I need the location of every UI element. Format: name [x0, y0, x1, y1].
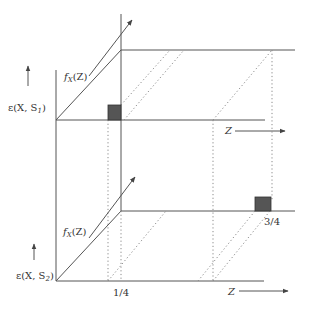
upper-fx-label: fX(Z)	[63, 71, 88, 84]
lower-marker-square	[255, 197, 271, 211]
lower-dotted-guides	[108, 211, 270, 281]
tick-label-three-quarter: 3/4	[264, 216, 280, 227]
tick-label-quarter: 1/4	[113, 287, 129, 298]
lower-fx-label: fX(Z)	[62, 226, 87, 239]
upper-dotted-guides	[108, 50, 272, 281]
frame-lines	[56, 14, 121, 281]
diagram-svg: ε(X, S1) fX(Z) Z ε(X, S2) fX(Z) Z 1/4 3/…	[0, 0, 309, 309]
diagram-canvas: ε(X, S1) fX(Z) Z ε(X, S2) fX(Z) Z 1/4 3/…	[0, 0, 309, 309]
lower-z-label: Z	[227, 286, 236, 297]
upper-eps-label: ε(X, S1)	[8, 102, 46, 115]
lower-fx-arrow	[89, 177, 135, 238]
lower-eps-label: ε(X, S2)	[16, 270, 54, 283]
upper-fx-arrow	[89, 20, 132, 76]
upper-z-label: Z	[224, 125, 233, 136]
lower-diagonal	[56, 211, 121, 281]
upper-marker-square	[108, 105, 121, 120]
